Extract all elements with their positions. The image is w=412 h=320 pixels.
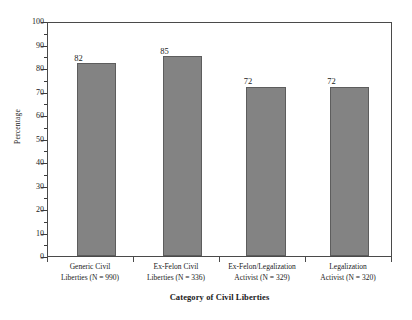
bar-ex-felon-civil-liberties[interactable] bbox=[163, 56, 202, 256]
x-tick-label-line1: Ex-Felon Civil bbox=[154, 262, 199, 271]
bar-legalization-activist[interactable] bbox=[330, 87, 369, 256]
bar-value-label: 72 bbox=[302, 77, 362, 86]
x-tick-label-line1: Legalization bbox=[329, 262, 366, 271]
bar-generic-civil-liberties[interactable] bbox=[77, 63, 116, 256]
x-tick-label-line1: Ex-Felon/Legalization bbox=[228, 262, 295, 271]
bar-value-label: 85 bbox=[135, 47, 195, 56]
x-tick-label-legalization-activist: Legalization Activist (N = 320) bbox=[294, 262, 402, 283]
bar-value-label: 82 bbox=[49, 54, 109, 63]
bar-ex-felon-legalization-activist[interactable] bbox=[246, 87, 286, 256]
x-tick-label-line1: Generic Civil bbox=[70, 262, 111, 271]
bar-chart-figure: Percentage 100 90 80 70 60 50 40 30 20 1… bbox=[0, 0, 412, 320]
x-axis-title: Category of Civil Liberties bbox=[47, 292, 392, 302]
x-tick-label-line2: Activist (N = 320) bbox=[294, 273, 402, 284]
bar-value-label: 72 bbox=[218, 77, 278, 86]
